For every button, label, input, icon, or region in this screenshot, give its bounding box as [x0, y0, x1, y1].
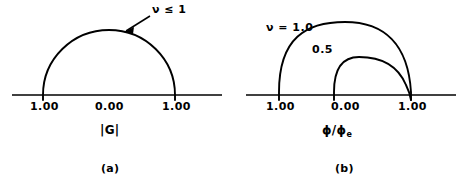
panel-b-tick-label-center: 0.00: [331, 101, 360, 112]
panel-b-annotation-nu-outer: ν = 1.0: [266, 22, 313, 33]
panel-a-caption: (a): [101, 163, 119, 174]
panel-a-semicircle-curve: [43, 30, 175, 100]
panel-b-tick-label-left: 1.00: [266, 101, 295, 112]
panel-a-tick-label-left: 1.00: [30, 101, 59, 112]
panel-b-axis-title-subscript: e: [346, 130, 352, 139]
panel-b-axis-title-main: ϕ/ϕ: [322, 123, 346, 137]
panel-a-tick-label-center: 0.00: [95, 101, 124, 112]
panel-b-caption: (b): [335, 163, 354, 174]
panel-b: ν = 1.0 0.5 1.00 0.00 1.00 ϕ/ϕe (b): [234, 0, 467, 184]
panel-b-axis-title: ϕ/ϕe: [322, 124, 352, 139]
panel-a-plot: [0, 0, 234, 184]
panel-a: ν ≤ 1 1.00 0.00 1.00 |G| (a): [0, 0, 234, 184]
panel-a-tick-label-right: 1.00: [162, 101, 191, 112]
panel-a-axis-title: |G|: [100, 124, 120, 136]
panel-a-annotation-arrow-head: [124, 27, 134, 34]
panel-a-annotation-arrow-shaft: [126, 16, 150, 31]
panel-b-tick-label-right: 1.00: [398, 101, 427, 112]
figure-container: ν ≤ 1 1.00 0.00 1.00 |G| (a) ν = 1.0 0.5…: [0, 0, 467, 184]
panel-b-annotation-nu-inner: 0.5: [312, 44, 333, 55]
panel-a-annotation-nu: ν ≤ 1: [152, 4, 187, 15]
panel-b-curve-inner: [334, 57, 411, 100]
